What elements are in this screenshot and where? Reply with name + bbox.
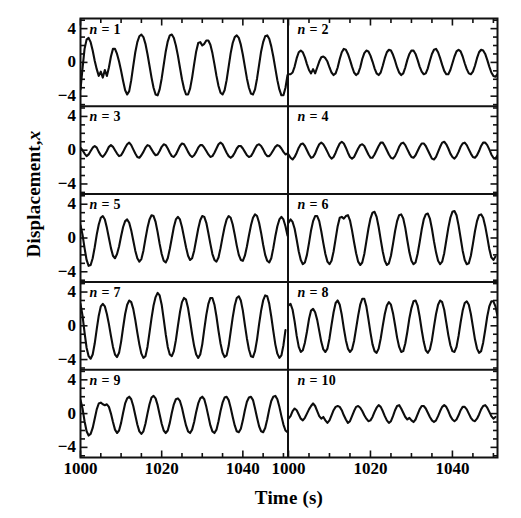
- y-tick-label: −4: [42, 438, 76, 455]
- panel-label-n3: n = 3: [90, 109, 121, 125]
- panel-label-n2: n = 2: [298, 22, 329, 38]
- series-line-n4: [289, 142, 498, 160]
- x-tick-label: 1020: [335, 459, 405, 479]
- series-line-n5: [81, 214, 288, 265]
- series-line-n1: [81, 35, 288, 96]
- plot-area: [0, 0, 521, 518]
- y-tick-label: 0: [42, 317, 76, 334]
- y-tick-label: 0: [42, 229, 76, 246]
- series-line-n8: [289, 299, 498, 353]
- series-line-n10: [289, 403, 496, 422]
- panel-label-n6: n = 6: [298, 197, 329, 213]
- panel-label-n4: n = 4: [298, 109, 329, 125]
- x-tick-label: 1040: [417, 459, 487, 479]
- y-tick-label: 0: [42, 405, 76, 422]
- y-tick-label: 0: [42, 141, 76, 158]
- panel-label-n10: n = 10: [298, 373, 337, 389]
- x-tick-label: 1020: [127, 459, 197, 479]
- panel-label-n7: n = 7: [90, 285, 121, 301]
- figure-container: Displacement,x Time (s) n = 1n = 2n = 3n…: [0, 0, 521, 518]
- y-tick-label: 4: [42, 195, 76, 212]
- y-tick-label: −4: [42, 175, 76, 192]
- y-axis-label-variable: x: [23, 131, 44, 141]
- y-tick-label: 4: [42, 107, 76, 124]
- panel-label-n5: n = 5: [90, 197, 121, 213]
- series-line-n6: [289, 211, 496, 265]
- y-tick-label: 4: [42, 283, 76, 300]
- y-tick-label: 4: [42, 371, 76, 388]
- series-line-n2: [289, 49, 498, 77]
- series-line-n3: [81, 143, 288, 158]
- panel-label-n9: n = 9: [90, 373, 121, 389]
- panel-label-n8: n = 8: [298, 285, 329, 301]
- y-axis-label-text: Displacement,: [23, 140, 44, 257]
- series-line-n7: [81, 293, 286, 359]
- x-tick-label: 1000: [46, 459, 116, 479]
- y-tick-label: 4: [42, 20, 76, 37]
- y-tick-label: 0: [42, 53, 76, 70]
- x-axis-label: Time (s): [80, 487, 498, 509]
- panel-label-n1: n = 1: [90, 22, 121, 38]
- panel-frames: [81, 19, 498, 458]
- x-tick-label: 1000: [254, 459, 324, 479]
- y-tick-label: −4: [42, 351, 76, 368]
- y-tick-label: −4: [42, 263, 76, 280]
- series-line-n9: [81, 396, 288, 436]
- y-tick-label: −4: [42, 87, 76, 104]
